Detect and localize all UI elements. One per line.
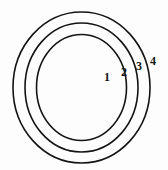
zone-label-4: 4	[150, 55, 156, 67]
zone-label-1: 1	[104, 71, 110, 83]
concentric-circles-diagram: 1 2 3 4	[0, 0, 168, 170]
circle-inner	[37, 35, 127, 141]
zone-label-2: 2	[121, 66, 127, 78]
concentric-circles-graphic	[0, 0, 168, 170]
circle-middle	[25, 23, 138, 152]
zone-label-3: 3	[136, 60, 142, 72]
